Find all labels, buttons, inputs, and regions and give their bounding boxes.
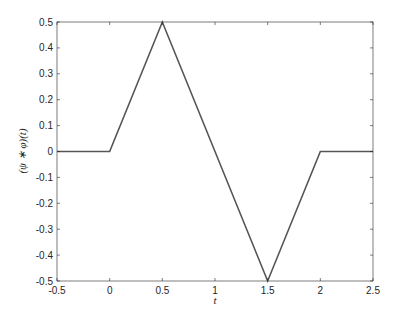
y-tick-label: -0.1 [36,172,54,183]
y-tick-label: -0.2 [36,198,54,209]
y-tick-label: 0.5 [39,17,53,28]
y-tick-label: 0.4 [39,42,53,53]
y-tick-label: -0.4 [36,250,54,261]
chart: -0.500.511.522.5 0.50.40.30.20.10-0.1-0.… [0,0,398,321]
x-axis: -0.500.511.522.5 [48,22,380,296]
y-tick-label: 0.1 [39,120,53,131]
y-tick-label: 0 [47,146,53,157]
y-axis-label: (ψ ∗ φ)(t) [16,128,29,173]
x-tick-label: -0.5 [48,285,66,296]
x-tick-label: 2 [318,285,324,296]
y-tick-label: -0.3 [36,224,54,235]
x-tick-label: 0.5 [155,285,169,296]
y-tick-label: -0.5 [36,276,54,287]
x-tick-label: 1.5 [261,285,275,296]
series-line [57,22,373,281]
x-tick-label: 0 [107,285,113,296]
y-tick-label: 0.3 [39,68,53,79]
x-tick-label: 2.5 [366,285,380,296]
y-tick-label: 0.2 [39,94,53,105]
